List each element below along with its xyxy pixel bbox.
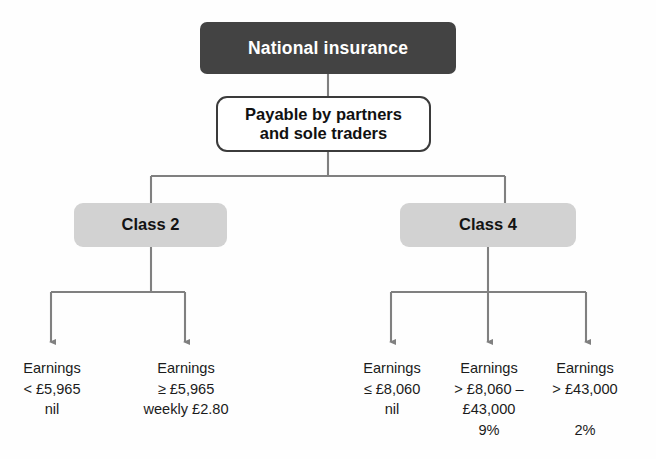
- leaf-class2-lower: Earnings < £5,965 nil: [0, 358, 104, 420]
- node-payable-by-line1: Payable by partners: [245, 105, 402, 123]
- leaf-class2-upper: Earnings ≥ £5,965 weekly £2.80: [120, 358, 252, 420]
- node-class-2-label: Class 2: [122, 215, 180, 234]
- leaf-class4-band1: Earnings ≤ £8,060 nil: [341, 358, 443, 420]
- national-insurance-flowchart: National insurance Payable by partners a…: [0, 0, 656, 459]
- leaf-class4-band2: Earnings > £8,060 – £43,000 9%: [437, 358, 541, 441]
- node-payable-by-label: Payable by partners and sole traders: [245, 105, 402, 144]
- node-national-insurance: National insurance: [200, 22, 456, 74]
- node-payable-by: Payable by partners and sole traders: [216, 96, 431, 152]
- node-payable-by-line2: and sole traders: [260, 124, 387, 142]
- leaf-class4-band3: Earnings > £43,000 2%: [533, 358, 637, 441]
- node-class-4-label: Class 4: [459, 215, 517, 234]
- node-national-insurance-label: National insurance: [248, 38, 408, 59]
- node-class-4: Class 4: [400, 203, 576, 247]
- node-class-2: Class 2: [74, 203, 227, 247]
